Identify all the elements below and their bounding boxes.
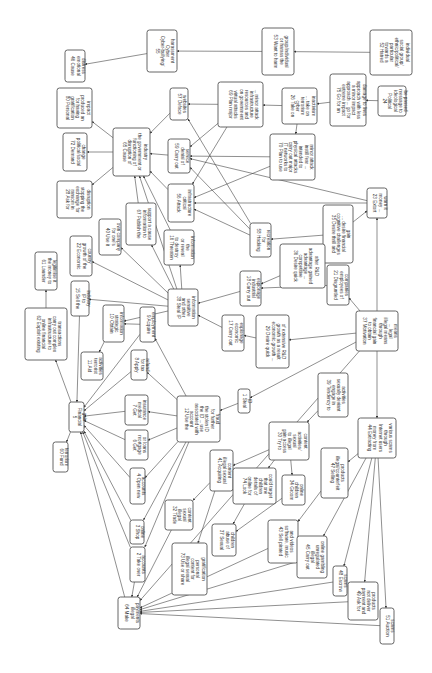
node-34: 34 Groomchildrenonline [282,475,305,505]
node-67: 67 Publish theinformation tosupport a ca… [126,203,156,245]
node-61: 61 Launderthe money tolegitimise it [35,252,57,290]
edge-64-to-5 [81,432,125,597]
node-59: 59 Carry outdenial ofservice [168,139,190,173]
node-12: 12 Use theaccountassociated withthe ID .… [177,396,220,442]
node-label: 67 Publish theinformation tosupport a ca… [136,208,151,241]
edge-15-to-5 [77,316,80,402]
node-39: 39 Tendency toengage insexually devianta… [318,373,348,417]
node-2: 2 Take overaccounts [130,547,146,582]
node-35: 35 Desire thrill andcognitive challenges… [323,205,353,263]
edge-52-to-53 [294,52,370,53]
node-72: 72 Demandpolitical/socialchange [63,133,87,171]
node-6: 6 Getmortgageor loans [125,430,148,460]
node-69: 69 Plan majorvirtual attackson governmen… [218,82,263,127]
node-74: 74 Lookonline fordetails ofchildrenthat … [233,468,276,504]
node-label: 44 Extractingmoney fromInternet usersthr… [367,423,393,453]
edge-12-to-9 [155,338,186,396]
edge-35-to-58 [271,235,323,239]
node-38: 38 Steal IPand othersensitiveinformation [168,289,198,326]
node-22: 22 Economicgrowth of thecountry [70,236,92,276]
edge-58-to-56 [194,209,250,235]
node-70: 70 Plan to useIT networks tocarry out ma… [270,134,315,180]
edge-69-to-59 [190,123,218,146]
node-label: 46 Causeemotionaldistress [70,56,85,76]
edge-38-to-15 [89,299,168,306]
edge-70-to-59 [190,156,270,157]
node-57: 57 Defacewebsites [170,88,188,120]
edge-12-to-6 [148,428,177,440]
node-1: 1 StealID [238,389,252,413]
edge-1-to-12 [220,403,238,410]
node-52: 52 Hatredtowards aparticularethnic/polit… [370,30,412,75]
edge-5-to-62 [56,360,71,402]
edge-58-to-59 [190,167,250,229]
edge-12-to-4 [145,442,178,478]
edge-29-to-17 [244,335,256,338]
node-label: 17 Carry outeconomicespionage [228,320,243,346]
cybercrime-motivation-diagram: 55Cyber-bullying/Cyberharassment46 Cause… [0,0,432,673]
node-45: 45 Carry outillegalunregulatedonline gam… [297,536,327,578]
node-41: 41 Acquiringillegal sexualcontent [210,450,233,491]
node-label: 21 Disgruntledemployees ofcompanies [333,270,348,300]
edge-56-to-65 [150,171,168,190]
edge-30-to-34 [291,460,292,475]
node-label: 28 Ask forransom inexchange forstopping … [65,186,91,213]
node-label: 1 StealID [242,394,252,408]
node-label: 61 Launderthe money tolegitimise it [41,258,56,285]
node-label: 26 Take oncyberterrorism... take oninact… [290,95,316,118]
node-23: 23 Extortmoney ...warn it [367,188,388,218]
node-48: 48 Escrowscams [333,566,348,596]
edge-35-to-23 [353,211,367,222]
node-49: 49 Ask forpayment andnot deliverproducts [348,582,378,620]
node-label: 69 Plan majorvirtual attackson governmen… [228,89,259,120]
node-label: 70 Plan to useIT networks tocarry out ma… [278,141,314,174]
edge-55-to-46 [85,54,147,65]
node-label: 29 Desire quickeconomic growth ...growth… [265,322,286,362]
node-64: 64 Makeillegalpayments [118,597,140,629]
edge-48-to-64 [140,582,333,611]
node-62: 62 Exploit existingonline financialinfra… [25,308,67,360]
edge-59-to-65 [150,154,168,156]
edge-39-to-30 [307,411,318,422]
node-9: 9 Acquireemployment [140,307,156,342]
node-label: 2 Take overaccounts [136,553,146,577]
edge-41-to-32 [193,483,210,501]
node-7: 7 Getmedicalinsurance [125,395,148,425]
node-44: 44 Extractingmoney fromInternet usersthr… [358,418,396,458]
node-26: 26 Take oncyberterrorism... take oninact… [282,88,317,124]
node-15: 15 Sell theIP toindustry [71,281,91,316]
edge-44-to-47 [348,454,358,462]
edge-44-to-51 [378,458,386,608]
edge-12-to-8 [147,372,177,399]
node-label: 60 Fundterrorism [59,448,69,466]
edge-3-to-5 [84,431,131,520]
node-layer: 55Cyber-bullying/Cyberharassment46 Cause… [25,28,412,644]
node-32: 32 Tradeillegalsexualcontent [165,500,193,530]
node-label: 8 Applyfor taxrefund [134,357,149,373]
node-label: 37 Sexualabuse ofchildren [219,530,234,550]
node-43: 43 Sell piratedsoftware, musicand videos [268,520,298,563]
node-label: 57 Defacewebsites [177,94,187,115]
node-58: 58 Hackingforrecreation [250,223,271,257]
node-18: 18 Carry outindustrialespionage [240,271,261,306]
node-40: 40 Use itfor one'sown company [99,219,121,255]
node-51: 51 Auctionscams [380,608,395,644]
node-16: 16 Threatento destroyor revealtheinforma… [164,230,195,265]
edge-65-to-80 [92,122,113,138]
node-17: 17 Carry outeconomicespionage [222,315,244,351]
node-4: 4 Open newaccounts [130,468,146,504]
edge-45-to-64 [140,562,297,610]
edge-37-to-21 [349,298,360,311]
node-36: 36 Desire quickcompetitiveadvantage ...a… [280,244,325,288]
edge-57-to-65 [150,113,170,133]
node-73: 73 Use or shareillegal sexualcontent for… [172,543,207,595]
node-21: 21 Disgruntledemployees ofcompanies [327,265,349,305]
node-28: 28 Ask forransom inexchange forstopping … [57,181,92,218]
edge-18-to-38 [198,291,240,303]
edge-67-to-65 [135,176,139,203]
node-10: 10 Obtainstrategicinformation [103,305,124,342]
edge-26-to-70 [296,124,297,134]
node-label: 38 Steal IPand othersensitiveinformation [176,296,197,319]
edge-6-to-5 [84,421,125,440]
edge-44-to-49 [365,458,376,582]
